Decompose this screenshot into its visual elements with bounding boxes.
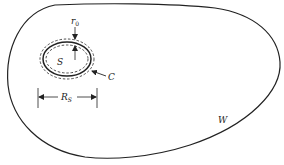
contour-c — [43, 42, 91, 76]
contour-c-label: C — [108, 72, 115, 82]
rs-label: RS — [60, 92, 72, 103]
region-w-label: W — [218, 115, 228, 125]
diagram-figure: r0 S C RS W — [0, 0, 284, 165]
region-w-boundary — [8, 4, 280, 158]
region-s-inner-dashed — [46, 45, 88, 73]
region-s-label: S — [57, 57, 63, 67]
r0-label: r0 — [71, 16, 79, 27]
contour-c-arrow — [92, 71, 106, 76]
